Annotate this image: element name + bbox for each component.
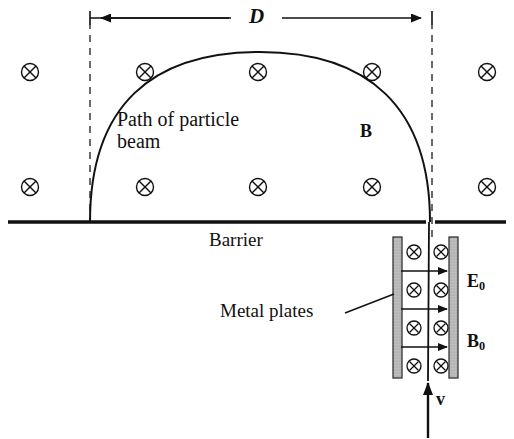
physics-diagram-svg <box>0 0 514 439</box>
field-symbol-cross-in-circle <box>364 179 381 196</box>
metal-plates-label: Metal plates <box>220 300 313 321</box>
beam-segment-in-plates <box>428 222 429 381</box>
field-symbol-cross-in-circle <box>407 321 421 335</box>
dimension-label-D: D <box>249 5 264 29</box>
magnetic-field-B-label: B <box>360 121 372 141</box>
field-symbol-cross-in-circle <box>479 64 496 81</box>
E0-symbol: E <box>467 271 479 291</box>
background-field-symbols <box>22 64 496 196</box>
field-symbol-cross-in-circle <box>407 283 421 297</box>
velocity-label: v <box>436 389 445 409</box>
field-symbol-cross-in-circle <box>137 179 154 196</box>
metal-plate-right <box>449 237 458 378</box>
field-symbol-cross-in-circle <box>479 179 496 196</box>
B0-symbol: B <box>467 331 479 351</box>
field-symbol-cross-in-circle <box>137 64 154 81</box>
field-symbol-cross-in-circle <box>250 179 267 196</box>
barrier-label: Barrier <box>209 229 263 250</box>
field-symbol-cross-in-circle <box>407 359 421 373</box>
electric-field-E0-label: E0 <box>467 271 485 294</box>
field-symbol-cross-in-circle <box>434 359 448 373</box>
field-symbol-cross-in-circle <box>364 64 381 81</box>
field-symbol-cross-in-circle <box>22 64 39 81</box>
metal-plate-left <box>393 237 402 378</box>
diagram-canvas: D Path of particle beam B Barrier Metal … <box>0 0 514 439</box>
field-symbol-cross-in-circle <box>434 245 448 259</box>
particle-beam-path-label: Path of particle beam <box>117 108 239 153</box>
B0-subscript: 0 <box>479 339 485 353</box>
magnetic-field-B0-label: B0 <box>467 331 485 354</box>
field-symbol-cross-in-circle <box>434 283 448 297</box>
field-symbol-cross-in-circle <box>434 321 448 335</box>
E0-subscript: 0 <box>479 279 485 293</box>
metal-plates-leader-line <box>345 294 394 313</box>
field-symbol-cross-in-circle <box>22 179 39 196</box>
field-symbol-cross-in-circle <box>407 245 421 259</box>
field-symbol-cross-in-circle <box>250 64 267 81</box>
